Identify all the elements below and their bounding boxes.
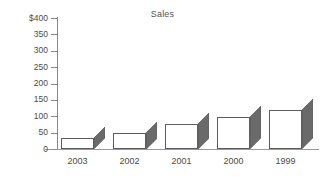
bar-front-face — [61, 138, 94, 149]
bar-2001 — [165, 113, 209, 149]
plot-area — [57, 18, 319, 149]
category-label-2001: 2001 — [156, 156, 208, 166]
bar-2002 — [113, 122, 157, 149]
bar-side-panel — [198, 113, 209, 149]
bar-front-face — [165, 124, 198, 149]
bar-front-face — [269, 110, 302, 149]
y-axis-tick-label: $400 — [2, 14, 48, 22]
category-label-2003: 2003 — [52, 156, 104, 166]
bar-2003 — [61, 127, 105, 149]
y-axis-tick-label: 250 — [2, 63, 48, 71]
y-axis-tick-label: 200 — [2, 79, 48, 87]
bar-side-panel — [94, 127, 105, 149]
x-axis-line — [45, 149, 319, 150]
y-axis-tick-label: 350 — [2, 30, 48, 38]
bar-side-panel — [302, 99, 313, 149]
bar-front-face — [217, 117, 250, 149]
bar-1999 — [269, 99, 313, 149]
y-axis-tick-label: 100 — [2, 112, 48, 120]
bar-side-panel — [250, 106, 261, 149]
sales-bar-chart: Sales $400350300250200150100500 20032002… — [0, 0, 325, 182]
y-axis-tick-label: 0 — [2, 145, 48, 153]
bar-side-panel — [146, 122, 157, 149]
category-label-2000: 2000 — [208, 156, 260, 166]
category-label-1999: 1999 — [260, 156, 312, 166]
y-axis-tick-label: 300 — [2, 46, 48, 54]
bar-front-face — [113, 133, 146, 149]
y-axis-tick — [51, 149, 57, 150]
y-axis-tick-label: 50 — [2, 128, 48, 136]
y-axis-tick-label: 150 — [2, 95, 48, 103]
bar-2000 — [217, 106, 261, 149]
category-label-2002: 2002 — [104, 156, 156, 166]
